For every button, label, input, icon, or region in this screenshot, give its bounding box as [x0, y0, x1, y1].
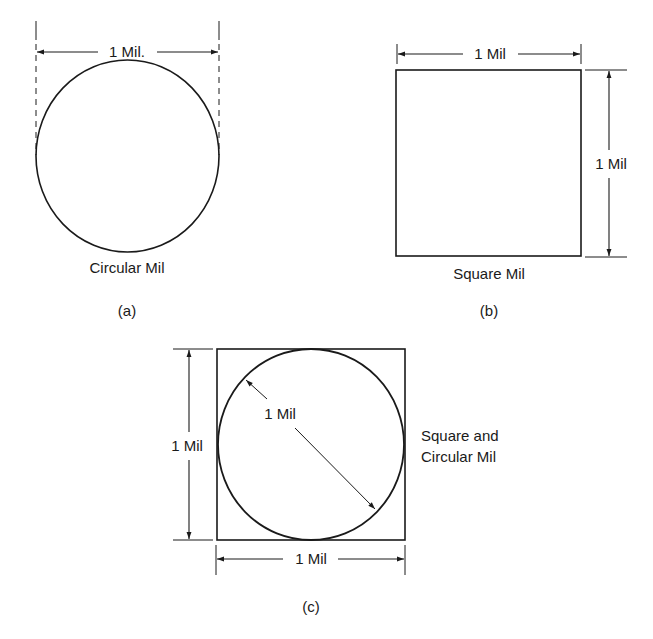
- figure-caption: (b): [480, 302, 498, 319]
- shape-label-line1: Square and: [421, 427, 499, 444]
- figure-caption: (a): [118, 302, 136, 319]
- shape-label: Square Mil: [453, 265, 525, 282]
- circle-shape: [36, 60, 219, 252]
- dimension-label: 1 Mil.: [109, 43, 145, 60]
- diameter-arrow-lower: [295, 428, 375, 509]
- figure-c-square-and-circular-mil: 1 Mil 1 Mil 1 Mil Square and Circular Mi…: [171, 349, 498, 615]
- figure-a-circular-mil: 1 Mil. Circular Mil (a): [36, 21, 219, 319]
- shape-label: Circular Mil: [90, 259, 165, 276]
- circular-mil-diagram: 1 Mil. Circular Mil (a) 1 Mil 1 Mil Squa…: [0, 0, 653, 639]
- shape-label-line2: Circular Mil: [421, 448, 496, 465]
- square-shape: [396, 70, 581, 256]
- left-dimension-label: 1 Mil: [171, 437, 203, 454]
- bottom-dimension-label: 1 Mil: [295, 550, 327, 567]
- top-dimension-label: 1 Mil: [474, 45, 506, 62]
- figure-b-square-mil: 1 Mil 1 Mil Square Mil (b): [396, 44, 627, 319]
- side-dimension-label: 1 Mil: [595, 155, 627, 172]
- figure-caption: (c): [302, 598, 320, 615]
- diameter-label: 1 Mil: [264, 405, 296, 422]
- diameter-arrow-upper: [246, 380, 267, 399]
